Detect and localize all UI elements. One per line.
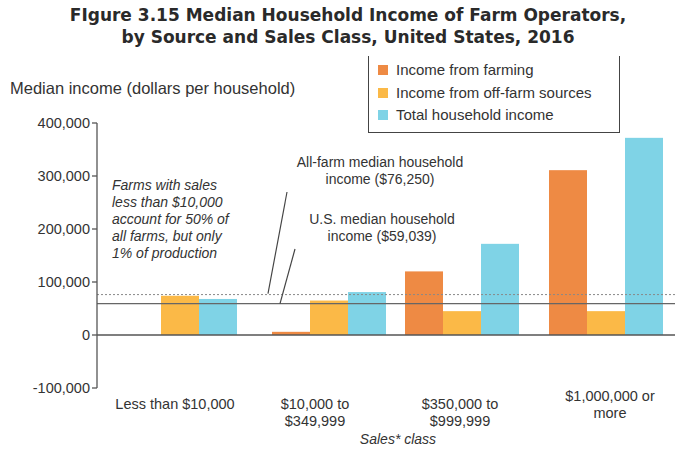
bar-farming (549, 170, 587, 335)
y-tick-label: 0 (82, 327, 90, 343)
x-tick-line: more (540, 405, 680, 422)
legend-swatch-farming (378, 65, 388, 75)
y-tick-label: 300,000 (38, 168, 90, 184)
x-tick-line: $1,000,000 or (540, 388, 680, 405)
x-axis-label: Sales* class (0, 431, 696, 447)
bar-total (625, 138, 663, 335)
bar-off-farm (310, 301, 348, 335)
bar-total (481, 244, 519, 335)
us-median-annotation: U.S. median household income ($59,039) (292, 211, 472, 245)
bar-total (348, 292, 386, 335)
x-tick-line: $10,000 to (250, 396, 380, 413)
y-tick-label: -100,000 (33, 380, 90, 396)
legend: Income from farming Income from off-farm… (368, 56, 620, 133)
all-farm-leader-line (268, 192, 287, 294)
legend-swatch-total (378, 110, 388, 120)
all-farm-median-annotation: All-farm median household income ($76,25… (280, 154, 480, 188)
legend-label: Income from off-farm sources (396, 84, 592, 101)
annotation-line: all farms, but only (112, 228, 229, 245)
annotation-line: U.S. median household (292, 211, 472, 228)
bar-total (199, 299, 237, 335)
y-tick-label: 100,000 (38, 274, 90, 290)
legend-swatch-off-farm (378, 88, 388, 98)
y-tick-label: 200,000 (38, 221, 90, 237)
annotation-line: account for 50% of (112, 211, 229, 228)
bar-off-farm (587, 311, 625, 335)
x-tick-label-2: $350,000 to $999,999 (395, 396, 525, 430)
x-tick-line: Less than $10,000 (100, 396, 250, 413)
annotation-line: less than $10,000 (112, 194, 229, 211)
legend-item-off-farm: Income from off-farm sources (378, 84, 592, 101)
x-tick-line: $349,999 (250, 413, 380, 430)
y-tick-label: 400,000 (38, 115, 90, 131)
legend-item-total: Total household income (378, 106, 554, 123)
legend-item-farming: Income from farming (378, 61, 534, 78)
small-farms-annotation: Farms with sales less than $10,000 accou… (112, 177, 229, 262)
annotation-line: income ($59,039) (292, 228, 472, 245)
x-tick-label-3: $1,000,000 or more (540, 388, 680, 422)
legend-label: Income from farming (396, 61, 534, 78)
bar-off-farm (161, 296, 199, 335)
us-median-leader-line (280, 249, 295, 304)
annotation-line: 1% of production (112, 245, 229, 262)
annotation-line: income ($76,250) (280, 171, 480, 188)
x-tick-label-0: Less than $10,000 (100, 396, 250, 413)
annotation-line: Farms with sales (112, 177, 229, 194)
legend-label: Total household income (396, 106, 554, 123)
x-tick-label-1: $10,000 to $349,999 (250, 396, 380, 430)
x-tick-line: $999,999 (395, 413, 525, 430)
annotation-line: All-farm median household (280, 154, 480, 171)
x-tick-line: $350,000 to (395, 396, 525, 413)
bar-off-farm (443, 311, 481, 335)
